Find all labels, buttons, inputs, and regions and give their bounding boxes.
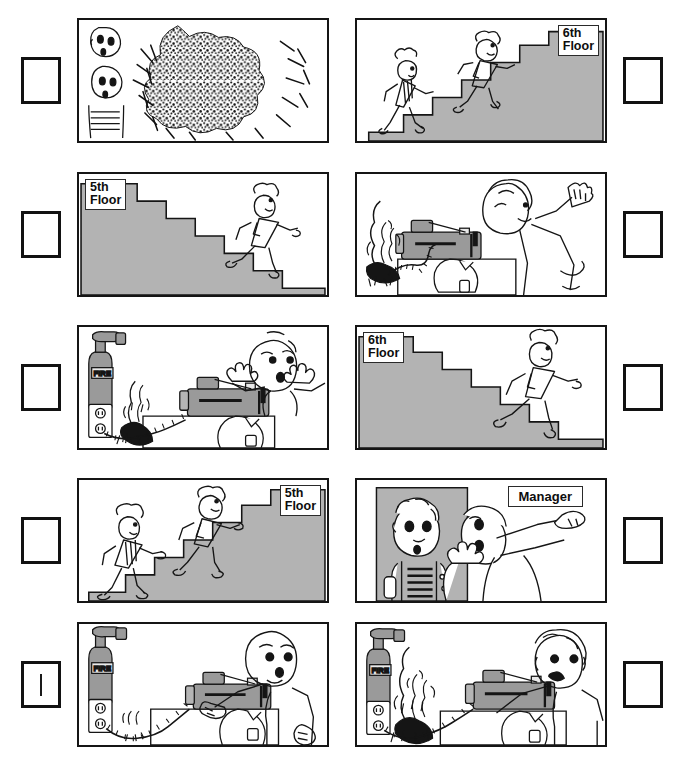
sewing-machine (396, 220, 481, 259)
fire (366, 201, 399, 286)
extinguisher-fire-label: FIRE (94, 664, 112, 673)
sewing-machine (186, 672, 271, 709)
answer-box-2[interactable] (623, 57, 663, 104)
big-fire (391, 647, 435, 743)
panel-9-happy-worker-sparks: FIRE (77, 622, 329, 747)
fire-extinguisher: FIRE (89, 332, 126, 414)
floor-sign-6th-b: 6th Floor (363, 332, 404, 363)
answer-box-1[interactable] (21, 57, 61, 104)
tally-mark-1 (40, 674, 42, 696)
manager-sign: Manager (508, 486, 583, 507)
garment (434, 259, 478, 292)
panel-7-walking-down-stairs-5th: 5th Floor (77, 478, 329, 603)
garment (220, 709, 265, 745)
fire-extinguisher: FIRE (89, 627, 127, 709)
worksheet-row-4: 5th Floor (0, 478, 685, 603)
panel-10-worried-worker-flames: FIRE (355, 622, 607, 747)
answer-box-5[interactable] (21, 364, 61, 411)
panel-2-running-up-stairs-6th: 6th Floor (355, 18, 607, 143)
fire-extinguisher: FIRE (367, 629, 405, 711)
answer-box-6[interactable] (623, 364, 663, 411)
smoke-cloud (144, 26, 264, 133)
extinguisher-fire-label: FIRE (372, 666, 390, 675)
worksheet-sheet: 6th Floor (0, 0, 685, 769)
runner (226, 183, 300, 278)
panel-8-reporting-to-manager: Manager (355, 478, 607, 603)
panel-4-worker-fleeing-fire (355, 172, 607, 297)
panel-1-fire-witnesses (77, 18, 329, 143)
answer-box-4[interactable] (623, 211, 663, 258)
answer-box-8[interactable] (623, 517, 663, 564)
face-lower (89, 66, 124, 138)
answer-box-3[interactable] (21, 211, 61, 258)
garment (502, 711, 547, 745)
face-upper (91, 28, 121, 57)
worksheet-row-1: 6th Floor (0, 18, 685, 143)
panel-6-running-down-stairs-6th: 6th Floor (355, 325, 607, 450)
floor-sign-5th: 5th Floor (85, 179, 126, 210)
answer-box-7[interactable] (21, 517, 61, 564)
garment (218, 416, 263, 448)
answer-box-10[interactable] (623, 661, 663, 708)
floor-sign-6th: 6th Floor (558, 25, 599, 56)
worksheet-row-3: FIRE (0, 325, 685, 450)
worksheet-row-5: FIRE (0, 622, 685, 747)
floor-sign-5th-b: 5th Floor (280, 485, 321, 516)
answer-box-9[interactable] (21, 661, 61, 708)
panel-5-startled-worker-outlet-fire: FIRE (77, 325, 329, 450)
panel-3-running-down-stairs-5th: 5th Floor (77, 172, 329, 297)
extinguisher-fire-label: FIRE (94, 369, 112, 378)
wall-outlet (89, 404, 112, 437)
worksheet-row-2: 5th Floor (0, 172, 685, 297)
